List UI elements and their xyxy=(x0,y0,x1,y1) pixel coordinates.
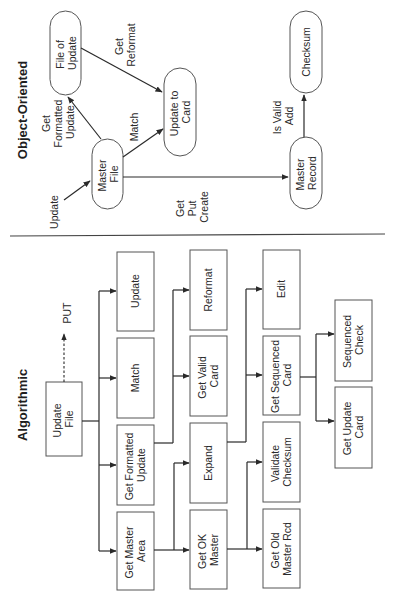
svg-text:Validate Checksum: Validate Checksum xyxy=(269,437,293,487)
svg-text:Get Old Master Rcd: Get Old Master Rcd xyxy=(269,522,293,576)
label-update: Update xyxy=(48,195,60,229)
algorithmic-title: Algorithmic xyxy=(15,369,30,441)
svg-text:Edit: Edit xyxy=(275,280,287,298)
connectors-level2 xyxy=(154,290,189,550)
box-edit: Edit xyxy=(263,250,300,329)
box-get-ok-master: Get OK Master xyxy=(190,510,227,589)
connectors-level3 xyxy=(227,289,262,549)
algorithmic-section: Algorithmic Update File PUT Update xyxy=(15,250,372,590)
box-reformat: Reformat xyxy=(190,250,227,330)
box-update: Update xyxy=(117,252,154,331)
section-divider xyxy=(10,234,385,236)
edge-update xyxy=(64,181,90,200)
box-get-formatted-update: Get Formatted Update xyxy=(117,425,154,505)
node-master-record: Master Record xyxy=(290,137,322,209)
put-label: PUT xyxy=(61,302,73,324)
svg-text:Checksum: Checksum xyxy=(300,27,312,77)
box-get-sequenced-card: Get Sequenced Card xyxy=(263,336,300,415)
object-oriented-title: Object-Oriented xyxy=(15,61,30,159)
label-get-formatted-update: Get Formatted Update xyxy=(40,97,76,148)
svg-text:Match: Match xyxy=(129,364,141,393)
box-validate-checksum: Validate Checksum xyxy=(263,422,300,502)
connectors-level4 xyxy=(300,334,334,421)
box-expand: Expand xyxy=(190,423,227,503)
label-is-valid-add: Is Valid Add xyxy=(271,98,295,135)
box-get-old-master-rcd: Get Old Master Rcd xyxy=(263,509,300,588)
svg-text:Reformat: Reformat xyxy=(202,268,214,311)
box-sequenced-check: Sequenced Check xyxy=(335,300,372,381)
svg-text:Update: Update xyxy=(129,274,141,308)
label-get-reformat: Get Reformat xyxy=(113,23,137,66)
node-update-to-card: Update to Card xyxy=(164,68,196,156)
connectors-level1 xyxy=(82,291,116,551)
box-get-master-area: Get Master Area xyxy=(117,512,154,590)
node-master-file: Master File xyxy=(92,139,123,209)
node-checksum: Checksum xyxy=(290,11,322,93)
label-match: Match xyxy=(128,113,140,142)
box-get-valid-card: Get Valid Card xyxy=(190,336,227,416)
box-get-update-card: Get Update Card xyxy=(335,387,372,468)
box-match: Match xyxy=(117,338,154,418)
label-get-put-create: Get Put Create xyxy=(174,191,210,223)
design-comparison-diagram: Object-Oriented File of Update Update to… xyxy=(0,0,393,591)
svg-text:Expand: Expand xyxy=(202,445,214,481)
box-update-file: Update File xyxy=(46,382,82,456)
svg-text:File of Update: File of Update xyxy=(54,36,78,70)
svg-text:Master Record: Master Record xyxy=(294,155,318,190)
svg-text:Get OK Master: Get OK Master xyxy=(196,531,220,569)
object-oriented-section: Object-Oriented File of Update Update to… xyxy=(15,11,322,229)
node-file-of-update: File of Update xyxy=(50,11,81,95)
